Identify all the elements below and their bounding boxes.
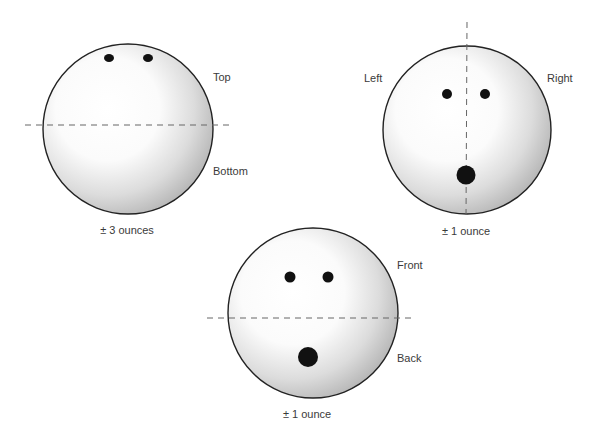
label-bottom: Bottom (213, 165, 248, 177)
finger-hole-icon (143, 54, 153, 62)
finger-hole-icon (480, 89, 490, 99)
finger-hole-icon (323, 272, 334, 283)
ball-outline (228, 228, 398, 398)
label-back: Back (397, 352, 422, 364)
tolerance-label: ± 3 ounces (100, 224, 154, 236)
tolerance-label: ± 1 ounce (283, 408, 331, 420)
finger-hole-icon (104, 54, 114, 62)
finger-hole-icon (442, 89, 452, 99)
thumb-hole-icon (298, 347, 318, 367)
thumb-hole-icon (457, 166, 476, 185)
label-right: Right (547, 72, 573, 84)
ball-outline (43, 44, 213, 214)
view-left-right: Left Right ± 1 ounce (364, 22, 573, 237)
label-left: Left (364, 72, 382, 84)
label-top: Top (213, 71, 231, 83)
finger-hole-icon (285, 272, 296, 283)
label-front: Front (397, 259, 423, 271)
view-front-back: Front Back ± 1 ounce (207, 228, 423, 420)
tolerance-label: ± 1 ounce (442, 225, 490, 237)
view-top-bottom: Top Bottom ± 3 ounces (25, 44, 248, 236)
bowling-ball-diagram: Top Bottom ± 3 ounces Left Right ± 1 oun… (0, 0, 604, 434)
